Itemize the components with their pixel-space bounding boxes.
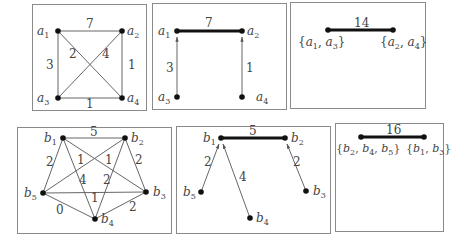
weight-a3-a2: 4 bbox=[102, 47, 110, 61]
panel-frame bbox=[177, 127, 331, 234]
node-set-a2-a4 bbox=[390, 27, 396, 33]
node-label-b2: b2 bbox=[291, 131, 304, 147]
weight-b4-b3: 2 bbox=[129, 200, 137, 214]
node-b4 bbox=[247, 215, 253, 221]
panel-a-graph: a1 a2 a3 a4 7 3 1 1 2 4 bbox=[33, 5, 147, 112]
node-label-a1: a1 bbox=[158, 24, 170, 40]
weight-b2-b4: 2 bbox=[103, 173, 111, 187]
node-a3 bbox=[55, 95, 61, 101]
weight-a4-a2: 1 bbox=[246, 61, 254, 75]
node-label-b5: b5 bbox=[24, 186, 37, 202]
set-label-a2-a4: {a2, a4} bbox=[380, 35, 427, 51]
weight-a1-a2: 7 bbox=[205, 16, 213, 30]
node-a3 bbox=[174, 94, 180, 100]
node-a1 bbox=[55, 28, 61, 34]
weight-b1-b5: 2 bbox=[46, 155, 54, 169]
node-label-b4: b4 bbox=[101, 212, 114, 228]
node-b4 bbox=[92, 216, 98, 222]
node-label-b3: b3 bbox=[153, 185, 166, 201]
set-label-a1-a3: {a1, a3} bbox=[298, 35, 345, 51]
node-label-b4: b4 bbox=[256, 211, 269, 227]
weight-b5-b1: 2 bbox=[204, 155, 212, 169]
weight-a1-a2: 7 bbox=[86, 17, 94, 31]
node-set-a1-a3 bbox=[325, 27, 331, 33]
panel-frame bbox=[336, 124, 444, 232]
node-a2 bbox=[239, 28, 245, 34]
node-label-a3: a3 bbox=[158, 90, 170, 106]
node-label-a4: a4 bbox=[127, 91, 139, 107]
edge-b5-b4 bbox=[43, 193, 95, 219]
weight-b2-b3: 2 bbox=[135, 153, 143, 167]
panel-b-tree: b1 b2 b3 b4 b5 5 2 4 2 bbox=[177, 124, 331, 234]
node-b3 bbox=[303, 188, 309, 194]
node-set-b1-b3 bbox=[421, 134, 427, 140]
weight-contracted: 16 bbox=[386, 123, 401, 137]
weight-contracted: 14 bbox=[354, 16, 370, 30]
panel-a-tree: a1 a2 a3 a4 7 3 1 bbox=[153, 4, 287, 110]
weight-b5-b2: 1 bbox=[77, 153, 85, 167]
weight-b5-b3: 1 bbox=[91, 191, 99, 205]
weight-a2-a4: 1 bbox=[128, 58, 136, 72]
node-a1 bbox=[174, 28, 180, 34]
panel-b-graph: b1 b2 b3 b4 b5 5 2 2 1 1 4 2 1 0 2 bbox=[18, 125, 172, 234]
set-label-b1-b3: {b1, b3} bbox=[406, 142, 451, 157]
node-a4 bbox=[119, 95, 125, 101]
node-b5 bbox=[198, 189, 204, 195]
diagram-canvas: a1 a2 a3 a4 7 3 1 1 2 4 a1 a2 a3 a4 7 3 … bbox=[0, 0, 462, 241]
weight-b1-b2: 5 bbox=[90, 125, 98, 139]
node-b1 bbox=[60, 135, 66, 141]
panel-frame bbox=[153, 4, 287, 110]
weight-a3-a1: 3 bbox=[166, 61, 174, 75]
weight-b1-b3: 1 bbox=[105, 153, 113, 167]
panel-b-contracted: 16 {b2, b4, b5} {b1, b3} bbox=[336, 123, 452, 232]
node-b1 bbox=[218, 135, 224, 141]
weight-a1-a3: 3 bbox=[46, 58, 54, 72]
node-b3 bbox=[143, 189, 149, 195]
weight-b3-b2: 2 bbox=[293, 155, 301, 169]
node-b5 bbox=[40, 190, 46, 196]
weight-b1-b2: 5 bbox=[249, 124, 257, 138]
node-label-b3: b3 bbox=[313, 184, 326, 200]
weight-b4-b1: 4 bbox=[239, 170, 247, 184]
node-label-a1: a1 bbox=[37, 24, 49, 40]
node-b2 bbox=[282, 135, 288, 141]
weight-b1-b4: 4 bbox=[79, 173, 87, 187]
node-label-b5: b5 bbox=[183, 185, 196, 201]
node-label-b1: b1 bbox=[44, 131, 57, 147]
node-label-a4: a4 bbox=[256, 90, 268, 106]
node-label-a3: a3 bbox=[37, 91, 49, 107]
node-label-b2: b2 bbox=[131, 131, 144, 147]
panel-a-contracted: 14 {a1, a3} {a2, a4} bbox=[291, 3, 428, 109]
node-a2 bbox=[119, 28, 125, 34]
node-label-a2: a2 bbox=[247, 24, 259, 40]
weight-b5-b4: 0 bbox=[56, 203, 64, 217]
weight-a1-a4: 2 bbox=[69, 47, 77, 61]
weight-a3-a4: 1 bbox=[86, 97, 94, 111]
node-set-b2-b4-b5 bbox=[358, 134, 364, 140]
node-label-a2: a2 bbox=[127, 24, 139, 40]
set-label-b2-b4-b5: {b2, b4, b5} bbox=[336, 142, 400, 157]
node-label-b1: b1 bbox=[203, 131, 216, 147]
node-a4 bbox=[239, 94, 245, 100]
node-b2 bbox=[122, 135, 128, 141]
